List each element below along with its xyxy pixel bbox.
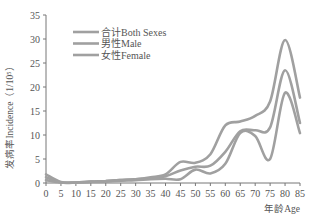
x-tick-label: 40: [161, 188, 171, 199]
legend-label: 女性Female: [101, 49, 151, 61]
y-tick-label: 30: [30, 34, 40, 45]
x-tick-label: 25: [116, 188, 126, 199]
x-tick-label: 0: [44, 188, 49, 199]
y-tick-label: 10: [30, 130, 40, 141]
x-tick-label: 5: [58, 188, 63, 199]
x-tick-label: 60: [220, 188, 230, 199]
x-tick-label: 70: [250, 188, 260, 199]
x-tick-label: 80: [280, 188, 290, 199]
x-axis-title: 年龄Age: [264, 203, 300, 214]
y-tick-label: 25: [30, 58, 40, 69]
y-tick-label: 15: [30, 106, 40, 117]
x-tick-label: 35: [146, 188, 156, 199]
y-axis: 05101520253035: [30, 10, 46, 189]
y-tick-label: 0: [35, 178, 40, 189]
legend-label: 合计Both Sexes: [101, 26, 166, 38]
x-tick-label: 20: [101, 188, 111, 199]
x-tick-label: 65: [235, 188, 245, 199]
x-tick-label: 85: [295, 188, 305, 199]
x-tick-label: 30: [131, 188, 141, 199]
x-tick-label: 15: [86, 188, 96, 199]
y-tick-label: 20: [30, 82, 40, 93]
series-lines: [46, 40, 300, 183]
x-tick-label: 45: [175, 188, 185, 199]
series-line-1: [46, 40, 300, 183]
legend: 合计Both Sexes男性Male女性Female: [73, 26, 166, 61]
y-tick-label: 5: [35, 154, 40, 165]
series-line-0: [46, 70, 300, 183]
incidence-line-chart: 05101520253035 0510152025303540455055606…: [0, 0, 319, 219]
x-tick-label: 75: [265, 188, 275, 199]
x-axis: 0510152025303540455055606570758085: [44, 183, 306, 199]
x-tick-label: 10: [71, 188, 81, 199]
x-tick-label: 50: [190, 188, 200, 199]
y-axis-title: 发病率Incidence（1/10⁵）: [4, 61, 15, 168]
y-tick-label: 35: [30, 10, 40, 21]
x-tick-label: 55: [205, 188, 215, 199]
legend-label: 男性Male: [101, 37, 142, 49]
